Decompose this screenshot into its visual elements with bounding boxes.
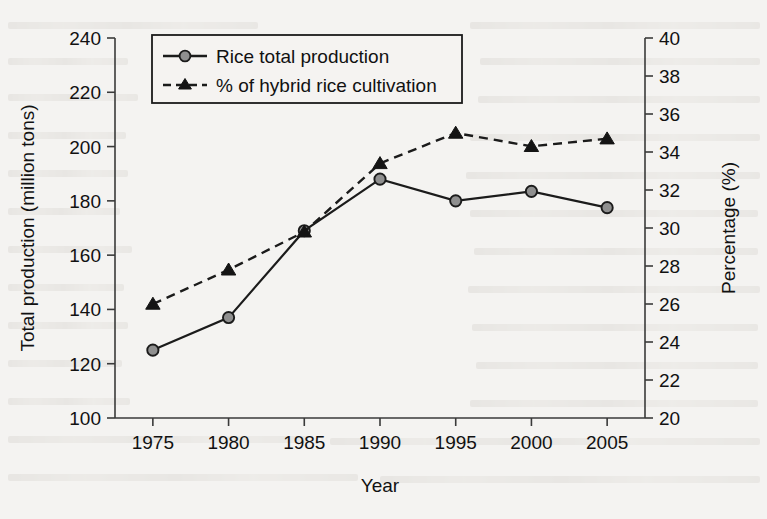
x-axis-tick-label: 1995 bbox=[435, 432, 477, 453]
x-axis-tick-label: 1975 bbox=[132, 432, 174, 453]
y-axis-left-tick-label: 120 bbox=[69, 354, 101, 375]
x-axis-ticks: 1975198019851990199520002005 bbox=[132, 418, 629, 453]
line-chart: 100120140160180200220240 202224262830323… bbox=[0, 0, 767, 519]
y-axis-right-tick-label: 30 bbox=[659, 218, 680, 239]
y-axis-right-tick-label: 32 bbox=[659, 180, 680, 201]
data-point-circle bbox=[223, 312, 234, 323]
data-point-triangle bbox=[146, 297, 160, 309]
chart-series-layer bbox=[146, 126, 615, 356]
x-axis-tick-label: 1990 bbox=[359, 432, 401, 453]
x-axis-title: Year bbox=[361, 475, 400, 496]
series-line bbox=[153, 179, 607, 350]
y-axis-right-ticks: 2022242628303234363840 bbox=[645, 28, 681, 429]
x-axis-tick-label: 2000 bbox=[510, 432, 552, 453]
y-axis-left-tick-label: 220 bbox=[69, 82, 101, 103]
circle-marker-icon bbox=[180, 51, 191, 62]
y-axis-right-tick-label: 38 bbox=[659, 66, 680, 87]
y-axis-left-tick-label: 140 bbox=[69, 299, 101, 320]
data-point-circle bbox=[374, 174, 385, 185]
y-axis-right-tick-label: 40 bbox=[659, 28, 680, 49]
y-axis-left-tick-label: 240 bbox=[69, 28, 101, 49]
y-axis-right-tick-label: 24 bbox=[659, 332, 681, 353]
data-point-circle bbox=[526, 186, 537, 197]
data-point-circle bbox=[602, 202, 613, 213]
x-axis-tick-label: 2005 bbox=[586, 432, 628, 453]
y-axis-left-tick-label: 160 bbox=[69, 245, 101, 266]
y-axis-left-tick-label: 100 bbox=[69, 408, 101, 429]
data-point-triangle bbox=[221, 263, 235, 275]
y-axis-right-tick-label: 34 bbox=[659, 142, 681, 163]
series-rice-total-production bbox=[147, 174, 612, 356]
y-axis-left-title: Total production (million tons) bbox=[17, 104, 38, 351]
chart-legend: Rice total production % of hybrid rice c… bbox=[152, 35, 462, 103]
figure-page: 100120140160180200220240 202224262830323… bbox=[0, 0, 767, 519]
x-axis-tick-label: 1980 bbox=[207, 432, 249, 453]
data-point-triangle bbox=[600, 132, 614, 144]
series-hybrid-rice-cultivation bbox=[146, 126, 615, 309]
y-axis-left-tick-label: 180 bbox=[69, 191, 101, 212]
y-axis-right-tick-label: 22 bbox=[659, 370, 680, 391]
y-axis-right-tick-label: 36 bbox=[659, 104, 680, 125]
y-axis-right-tick-label: 20 bbox=[659, 408, 680, 429]
data-point-circle bbox=[147, 345, 158, 356]
legend-label-1: % of hybrid rice cultivation bbox=[216, 75, 437, 96]
y-axis-left-tick-label: 200 bbox=[69, 137, 101, 158]
y-axis-right-tick-label: 28 bbox=[659, 256, 680, 277]
y-axis-left-ticks: 100120140160180200220240 bbox=[69, 28, 115, 429]
legend-label-0: Rice total production bbox=[216, 46, 389, 67]
data-point-circle bbox=[450, 195, 461, 206]
x-axis-tick-label: 1985 bbox=[283, 432, 325, 453]
data-point-triangle bbox=[449, 126, 463, 138]
y-axis-right-title: Percentage (%) bbox=[718, 162, 739, 294]
y-axis-right-tick-label: 26 bbox=[659, 294, 680, 315]
